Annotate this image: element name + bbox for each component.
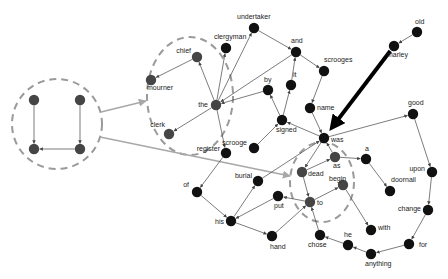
node-l4 bbox=[75, 144, 85, 154]
edge-was-dead bbox=[305, 142, 321, 167]
node-circle bbox=[75, 95, 85, 105]
node-of: of bbox=[183, 181, 202, 197]
edge-undertaker-and bbox=[259, 31, 292, 50]
node-mourner: mourner bbox=[146, 75, 174, 91]
node-circle bbox=[423, 205, 433, 215]
node-label: clerk bbox=[150, 121, 165, 128]
node-label: it bbox=[293, 71, 297, 78]
node-label: burial bbox=[235, 172, 253, 179]
node-signed: signed bbox=[276, 115, 297, 134]
node-label: hand bbox=[270, 243, 286, 250]
node-label: he bbox=[344, 231, 352, 238]
node-circle bbox=[343, 240, 353, 250]
node-circle bbox=[273, 191, 283, 201]
node-label: to bbox=[317, 199, 323, 206]
node-circle bbox=[277, 115, 287, 125]
node-label: was bbox=[330, 136, 344, 143]
node-label: scrooges bbox=[324, 56, 353, 64]
node-label: for bbox=[419, 241, 428, 248]
edge-a-doornail bbox=[369, 163, 386, 186]
node-label: signed bbox=[276, 126, 297, 134]
edge-signed-it bbox=[283, 91, 289, 115]
node-circle bbox=[389, 41, 399, 51]
node-begin: begin bbox=[329, 175, 348, 190]
node-circle bbox=[267, 231, 277, 241]
node-label: name bbox=[317, 104, 335, 111]
node-chose: chose bbox=[308, 230, 327, 248]
node-circle bbox=[221, 148, 231, 158]
edge-name-was bbox=[312, 113, 321, 133]
node-it: it bbox=[286, 71, 297, 90]
node-label: by bbox=[264, 76, 272, 84]
node-circle bbox=[29, 144, 39, 154]
left-cluster bbox=[12, 79, 102, 169]
node-label: the bbox=[198, 101, 208, 108]
node-label: scrooge bbox=[222, 139, 247, 147]
node-label: as bbox=[333, 162, 341, 169]
node-change: change bbox=[398, 205, 433, 215]
node-circle bbox=[253, 176, 263, 186]
node-was: was bbox=[319, 133, 344, 143]
node-circle bbox=[330, 152, 340, 162]
node-label: anything bbox=[365, 260, 392, 268]
edge-put-his bbox=[236, 198, 273, 218]
node-circle bbox=[297, 167, 307, 177]
node-circle bbox=[315, 230, 325, 240]
edge-upon-change bbox=[429, 177, 432, 204]
node-circle bbox=[427, 167, 437, 177]
node-clergyman: clergyman bbox=[214, 33, 246, 53]
node-label: and bbox=[291, 37, 303, 44]
highlight-edge-layer bbox=[100, 101, 290, 176]
node-circle bbox=[361, 154, 371, 164]
node-label: marley bbox=[387, 51, 409, 59]
node-circle bbox=[192, 187, 202, 197]
node-burial: burial bbox=[235, 172, 263, 186]
node-layer: chiefmournerclerktheclergymanundertakera… bbox=[29, 13, 437, 268]
node-circle bbox=[291, 47, 301, 57]
node-circle bbox=[192, 52, 202, 62]
edge-signed-by bbox=[270, 95, 279, 115]
node-label: put bbox=[274, 202, 284, 210]
edge-dead-as bbox=[307, 159, 330, 169]
edge-dead-to bbox=[303, 177, 308, 196]
node-with: with bbox=[366, 224, 391, 235]
node-and: and bbox=[291, 37, 303, 57]
node-label: with bbox=[377, 224, 391, 231]
node-label: a bbox=[365, 145, 369, 152]
node-register: register bbox=[197, 145, 232, 158]
node-hand: hand bbox=[267, 231, 286, 250]
node-doornail: doornail bbox=[385, 176, 417, 196]
node-label: undertaker bbox=[237, 13, 271, 20]
node-a: a bbox=[361, 145, 371, 164]
edge-scrooges-name bbox=[312, 76, 322, 103]
node-circle bbox=[263, 85, 273, 95]
word-network-diagram: chiefmournerclerktheclergymanundertakera… bbox=[0, 0, 448, 279]
node-marley: marley bbox=[387, 41, 409, 59]
node-label: clergyman bbox=[214, 33, 246, 41]
edge-and-scrooges bbox=[300, 55, 319, 68]
node-label: mourner bbox=[147, 84, 174, 91]
node-by: by bbox=[263, 76, 273, 95]
node-his: his bbox=[215, 216, 236, 226]
node-circle bbox=[75, 144, 85, 154]
node-label: change bbox=[398, 205, 421, 213]
node-label: of bbox=[183, 181, 189, 188]
node-circle bbox=[412, 27, 422, 37]
edge-old-marley bbox=[399, 35, 413, 43]
edge-good-upon bbox=[415, 119, 431, 167]
node-l3 bbox=[29, 144, 39, 154]
cluster-mapping-arrow bbox=[101, 101, 146, 112]
node-circle bbox=[408, 109, 418, 119]
edge-scrooge-signed bbox=[258, 124, 278, 144]
node-circle bbox=[226, 216, 236, 226]
edge-his-burial bbox=[234, 186, 255, 217]
node-circle bbox=[319, 133, 329, 143]
node-circle bbox=[29, 95, 39, 105]
edge-to-begin bbox=[315, 188, 338, 200]
node-label: doornail bbox=[391, 176, 416, 183]
node-label: good bbox=[408, 99, 424, 107]
edge-he-chose bbox=[325, 237, 343, 243]
node-circle bbox=[404, 239, 414, 249]
node-label: chief bbox=[176, 47, 191, 54]
node-l2 bbox=[75, 95, 85, 105]
